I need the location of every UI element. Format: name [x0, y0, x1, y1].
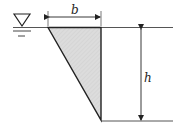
pressure-triangle: [48, 28, 101, 121]
water-surface-icon: [13, 14, 31, 36]
depth-label: h: [144, 72, 152, 84]
diagram-svg: [0, 0, 184, 130]
diagram-canvas: b h: [0, 0, 184, 130]
width-label: b: [71, 4, 79, 16]
